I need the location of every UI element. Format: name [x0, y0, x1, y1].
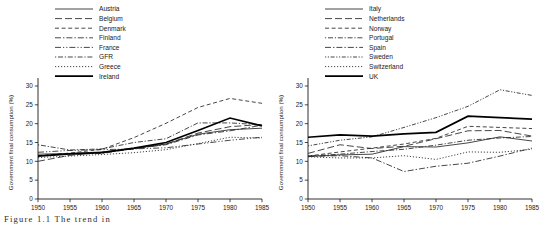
legend-label-portugal: Portugal: [369, 34, 394, 42]
x-tick-label: 1980: [223, 204, 238, 211]
chart-panel-left: 0510152025301950195519601965197019751980…: [0, 0, 270, 212]
y-tick-label: 15: [296, 139, 304, 146]
legend-label-netherlands: Netherlands: [369, 15, 405, 22]
series-line-uk: [308, 116, 532, 137]
figure-caption: Figure 1.1 The trend in: [0, 214, 540, 228]
chart-panel-right: 0510152025301950195519601965197019751980…: [270, 0, 540, 212]
figure-container: 0510152025301950195519601965197019751980…: [0, 0, 540, 228]
y-tick-label: 0: [299, 195, 303, 202]
legend-label-austria: Austria: [99, 5, 120, 12]
line-chart-right: 0510152025301950195519601965197019751980…: [270, 0, 540, 212]
legend-label-gfr: GFR: [99, 53, 113, 60]
x-tick-label: 1955: [63, 204, 78, 211]
legend-label-sweden: Sweden: [369, 53, 393, 60]
y-tick-label: 25: [296, 101, 304, 108]
legend-label-belgium: Belgium: [99, 15, 123, 23]
x-tick-label: 1970: [159, 204, 174, 211]
y-tick-label: 30: [26, 82, 34, 89]
legend-label-denmark: Denmark: [99, 25, 126, 32]
legend-label-finland: Finland: [99, 34, 121, 41]
x-tick-label: 1950: [301, 204, 316, 211]
x-tick-label: 1975: [461, 204, 476, 211]
x-tick-label: 1970: [429, 204, 444, 211]
legend-label-spain: Spain: [369, 44, 386, 52]
x-tick-label: 1980: [493, 204, 508, 211]
legend-label-greece: Greece: [99, 63, 121, 70]
y-tick-label: 25: [26, 101, 34, 108]
x-tick-label: 1950: [31, 204, 46, 211]
y-axis-label: Government final consumption (%): [277, 95, 284, 190]
x-tick-label: 1985: [255, 204, 270, 211]
y-tick-label: 5: [299, 176, 303, 183]
legend-label-switzerland: Switzerland: [369, 63, 403, 70]
x-tick-label: 1965: [397, 204, 412, 211]
legend-label-norway: Norway: [369, 25, 392, 33]
y-tick-label: 10: [296, 158, 304, 165]
line-chart-left: 0510152025301950195519601965197019751980…: [0, 0, 270, 212]
legend-label-france: France: [99, 44, 120, 51]
y-axis-label: Government final consumption (%): [7, 95, 14, 190]
x-tick-label: 1960: [365, 204, 380, 211]
y-tick-label: 0: [29, 195, 33, 202]
y-tick-label: 30: [296, 82, 304, 89]
y-tick-label: 20: [296, 120, 304, 127]
legend-label-uk: UK: [369, 73, 379, 80]
y-tick-label: 5: [29, 176, 33, 183]
x-tick-label: 1975: [191, 204, 206, 211]
x-tick-label: 1985: [525, 204, 540, 211]
y-tick-label: 15: [26, 139, 34, 146]
x-tick-label: 1965: [127, 204, 142, 211]
y-tick-label: 10: [26, 158, 34, 165]
x-tick-label: 1955: [333, 204, 348, 211]
legend-label-italy: Italy: [369, 5, 382, 13]
legend-label-ireland: Ireland: [99, 73, 119, 80]
x-tick-label: 1960: [95, 204, 110, 211]
y-tick-label: 20: [26, 120, 34, 127]
series-line-portugal: [308, 136, 532, 156]
figure-caption-text: Figure 1.1 The trend in: [4, 214, 540, 224]
